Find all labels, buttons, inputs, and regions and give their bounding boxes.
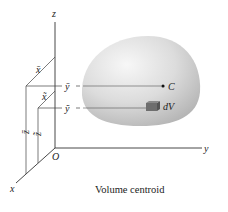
volume-centroid-diagram: z y x O x̄ ȳ z̄ C x̃ ỹ z̃ dV Volume cent… <box>0 0 228 212</box>
element-z-label: z̃ <box>32 132 43 137</box>
centroid-z-label: z̄ <box>20 130 31 135</box>
centroid-point-label: C <box>168 81 175 92</box>
x-axis <box>16 148 55 183</box>
element-x-line <box>38 91 55 108</box>
element-label: dV <box>163 101 176 112</box>
x-axis-label: x <box>9 183 15 194</box>
centroid-x-label: x̄ <box>35 64 41 75</box>
volume-body <box>82 36 200 126</box>
y-axis-label: y <box>203 143 209 154</box>
centroid-y-label: ȳ <box>64 81 70 92</box>
z-axis-label: z <box>51 8 56 19</box>
centroid-x-line <box>26 57 55 86</box>
volume-element-icon <box>146 101 160 111</box>
element-x-label: x̃ <box>41 91 47 102</box>
origin-label: O <box>52 151 59 162</box>
centroid-point <box>161 84 164 87</box>
element-y-label: ỹ <box>64 103 70 114</box>
figure-caption: Volume centroid <box>95 184 165 195</box>
